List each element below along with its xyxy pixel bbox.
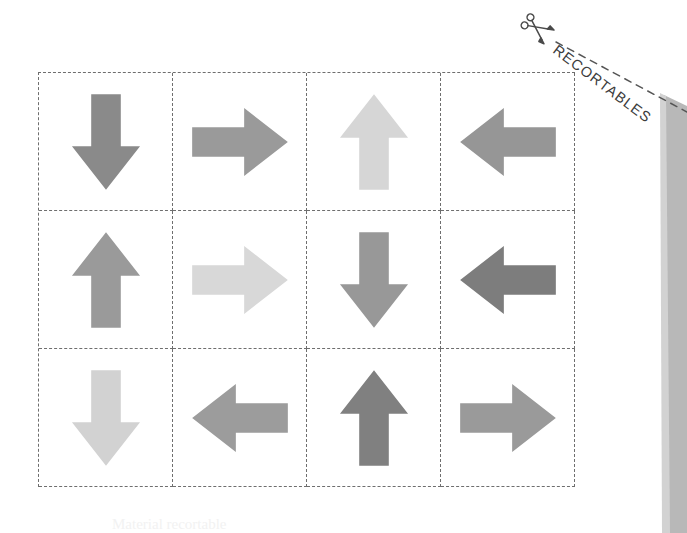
arrow-cell[interactable] <box>441 73 575 211</box>
arrow-up-icon-shape <box>339 370 407 466</box>
arrow-down-icon-shape <box>71 370 139 466</box>
arrow-left-icon-shape <box>460 107 556 175</box>
arrow-left-icon <box>456 243 560 317</box>
arrow-down-icon-shape <box>339 232 407 328</box>
arrow-right-icon-shape <box>460 383 556 451</box>
arrow-left-icon-shape <box>192 383 288 451</box>
page-fold-highlight <box>660 93 670 533</box>
arrow-up-icon <box>337 90 411 194</box>
arrow-left-icon <box>456 105 560 179</box>
arrow-cell[interactable] <box>307 349 441 487</box>
arrow-cell[interactable] <box>39 73 173 211</box>
arrow-cell[interactable] <box>39 211 173 349</box>
arrow-cell[interactable] <box>173 73 307 211</box>
arrow-cell[interactable] <box>173 349 307 487</box>
scissors-icon <box>519 12 554 45</box>
arrow-right-icon-shape <box>192 245 288 313</box>
arrow-up-icon-shape <box>71 232 139 328</box>
arrow-up-icon <box>337 366 411 470</box>
arrow-up-icon <box>69 228 143 332</box>
arrow-down-icon <box>69 90 143 194</box>
arrow-right-icon <box>188 105 292 179</box>
arrow-left-icon <box>188 381 292 455</box>
arrow-right-icon <box>188 243 292 317</box>
arrow-grid <box>38 72 575 487</box>
arrow-down-icon <box>337 228 411 332</box>
arrow-cell[interactable] <box>173 211 307 349</box>
arrow-cell[interactable] <box>307 73 441 211</box>
page-fold-band <box>664 95 687 533</box>
arrow-cell[interactable] <box>441 349 575 487</box>
arrow-up-icon-shape <box>339 94 407 190</box>
arrow-down-icon <box>69 366 143 470</box>
arrow-cell[interactable] <box>39 349 173 487</box>
arrow-right-icon-shape <box>192 107 288 175</box>
arrow-left-icon-shape <box>460 245 556 313</box>
arrow-cell[interactable] <box>441 211 575 349</box>
arrow-down-icon-shape <box>71 94 139 190</box>
footer-caption: Material recortable <box>112 516 412 533</box>
arrow-right-icon <box>456 381 560 455</box>
arrow-cell[interactable] <box>307 211 441 349</box>
